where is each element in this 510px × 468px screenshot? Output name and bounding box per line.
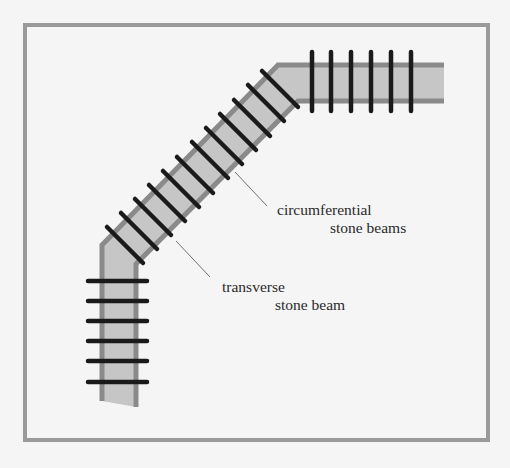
circumferential-leader-line (235, 172, 267, 206)
circumferential-label-line1: circumferential (277, 201, 372, 218)
transverse-leader-line (176, 241, 210, 277)
circumferential-label-line2: stone beams (330, 219, 406, 236)
inner-rail (136, 101, 444, 407)
stone-beam-diagram: circumferential stone beams transverse s… (0, 0, 510, 468)
transverse-label-line2: stone beam (275, 296, 345, 313)
transverse-label-line1: transverse (222, 278, 285, 295)
